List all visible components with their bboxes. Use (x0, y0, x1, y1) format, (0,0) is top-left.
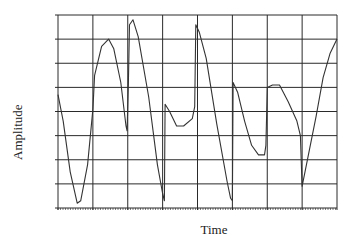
y-axis-label: Amplitude (10, 104, 26, 160)
x-axis-label: Time (0, 222, 354, 238)
y-axis-label-container: Amplitude (10, 160, 30, 161)
chart-plot (0, 0, 354, 248)
